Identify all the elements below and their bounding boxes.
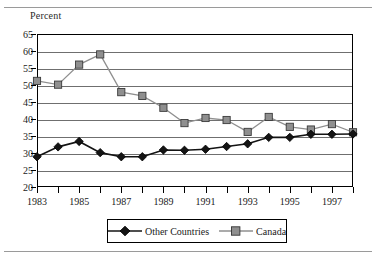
x-axis-tick-mark <box>100 187 101 193</box>
data-point-marker-square <box>118 89 125 96</box>
legend-item-canada: Canada <box>219 225 286 237</box>
x-axis-tick-label: 1989 <box>153 196 173 207</box>
x-axis-tick-labels: 19831985198719891991199319951997 <box>0 196 376 210</box>
data-point-marker-diamond <box>117 153 125 161</box>
x-axis-tick-mark <box>163 187 164 193</box>
data-point-marker-diamond <box>201 145 209 153</box>
x-axis-tick-mark <box>269 187 270 193</box>
x-axis-tick-mark <box>184 187 185 193</box>
data-point-marker-diamond <box>286 133 294 141</box>
data-point-marker-square <box>265 113 272 120</box>
data-point-marker-square <box>181 119 188 126</box>
data-point-marker-square <box>33 77 40 84</box>
legend-marker-square-icon <box>219 225 253 237</box>
y-axis-tick-label: 65 <box>11 29 33 40</box>
x-axis-tick-mark <box>248 187 249 193</box>
legend-label-canada: Canada <box>256 226 286 237</box>
data-point-marker-square <box>139 92 146 99</box>
data-point-marker-diamond <box>180 146 188 154</box>
data-point-marker-diamond <box>33 153 41 161</box>
y-axis-tick-label: 30 <box>11 148 33 159</box>
y-axis-tick-label: 25 <box>11 165 33 176</box>
y-axis-tick-label: 35 <box>11 131 33 142</box>
x-axis-tick-mark <box>332 187 333 193</box>
x-axis-tick-mark <box>290 187 291 193</box>
data-point-marker-square <box>328 121 335 128</box>
data-point-marker-diamond <box>96 148 104 156</box>
data-point-marker-square <box>97 51 104 58</box>
data-point-marker-square <box>244 128 251 135</box>
data-point-marker-diamond <box>222 142 230 150</box>
x-axis-tick-mark <box>353 187 354 193</box>
y-axis-tick-mark <box>31 170 36 171</box>
data-point-marker-square <box>202 114 209 121</box>
x-axis-tick-label: 1993 <box>238 196 258 207</box>
data-point-marker-diamond <box>75 137 83 145</box>
y-axis-tick-mark <box>31 187 36 188</box>
series-layer <box>37 34 353 187</box>
chart-legend: Other Countries Canada <box>107 219 287 243</box>
y-axis-tick-mark <box>31 68 36 69</box>
data-point-marker-diamond <box>265 133 273 141</box>
data-point-marker-square <box>223 116 230 123</box>
x-axis-tick-label: 1987 <box>111 196 131 207</box>
y-axis-tick-mark <box>31 85 36 86</box>
y-axis-tick-labels: 20253035404550556065 <box>9 34 33 187</box>
legend-item-other-countries: Other Countries <box>108 225 209 237</box>
y-axis-tick-mark <box>31 34 36 35</box>
x-axis-tick-mark <box>121 187 122 193</box>
x-axis-tick-mark <box>311 187 312 193</box>
data-point-marker-diamond <box>54 143 62 151</box>
y-axis-tick-label: 20 <box>11 182 33 193</box>
x-axis-tick-mark <box>37 187 38 193</box>
bottom-divider-rule <box>4 251 372 252</box>
y-axis-tick-mark <box>31 102 36 103</box>
y-axis-tick-label: 40 <box>11 114 33 125</box>
series-canada <box>33 51 356 136</box>
x-axis-tick-label: 1997 <box>322 196 342 207</box>
y-axis-tick-mark <box>31 51 36 52</box>
data-point-marker-diamond <box>328 130 336 138</box>
y-axis-tick-label: 60 <box>11 46 33 57</box>
data-point-marker-diamond <box>138 153 146 161</box>
legend-marker-diamond-icon <box>108 225 142 237</box>
x-axis-tick-label: 1985 <box>69 196 89 207</box>
x-axis-tick-mark <box>142 187 143 193</box>
data-point-marker-diamond <box>243 140 251 148</box>
legend-label-other-countries: Other Countries <box>145 226 209 237</box>
series-other-countries <box>33 130 357 161</box>
x-axis-tick-label: 1991 <box>196 196 216 207</box>
y-axis-tick-label: 45 <box>11 97 33 108</box>
x-axis-tick-mark <box>58 187 59 193</box>
x-axis-tick-marks <box>37 187 353 194</box>
chart-figure: Percent 20253035404550556065 19831985198… <box>0 0 376 262</box>
y-axis-title: Percent <box>30 10 61 21</box>
x-axis-tick-mark <box>227 187 228 193</box>
y-axis-tick-mark <box>31 136 36 137</box>
data-point-marker-square <box>160 104 167 111</box>
y-axis-tick-mark <box>31 119 36 120</box>
data-point-marker-square <box>76 61 83 68</box>
y-axis-tick-label: 55 <box>11 63 33 74</box>
series-line <box>37 134 353 157</box>
x-axis-tick-label: 1995 <box>280 196 300 207</box>
data-point-marker-diamond <box>159 146 167 154</box>
data-point-marker-square <box>286 123 293 130</box>
x-axis-tick-mark <box>206 187 207 193</box>
y-axis-tick-mark <box>31 153 36 154</box>
series-line <box>37 54 353 132</box>
top-divider-rule <box>4 7 372 8</box>
data-point-marker-square <box>54 81 61 88</box>
y-axis-tick-label: 50 <box>11 80 33 91</box>
x-axis-tick-mark <box>79 187 80 193</box>
x-axis-tick-label: 1983 <box>27 196 47 207</box>
